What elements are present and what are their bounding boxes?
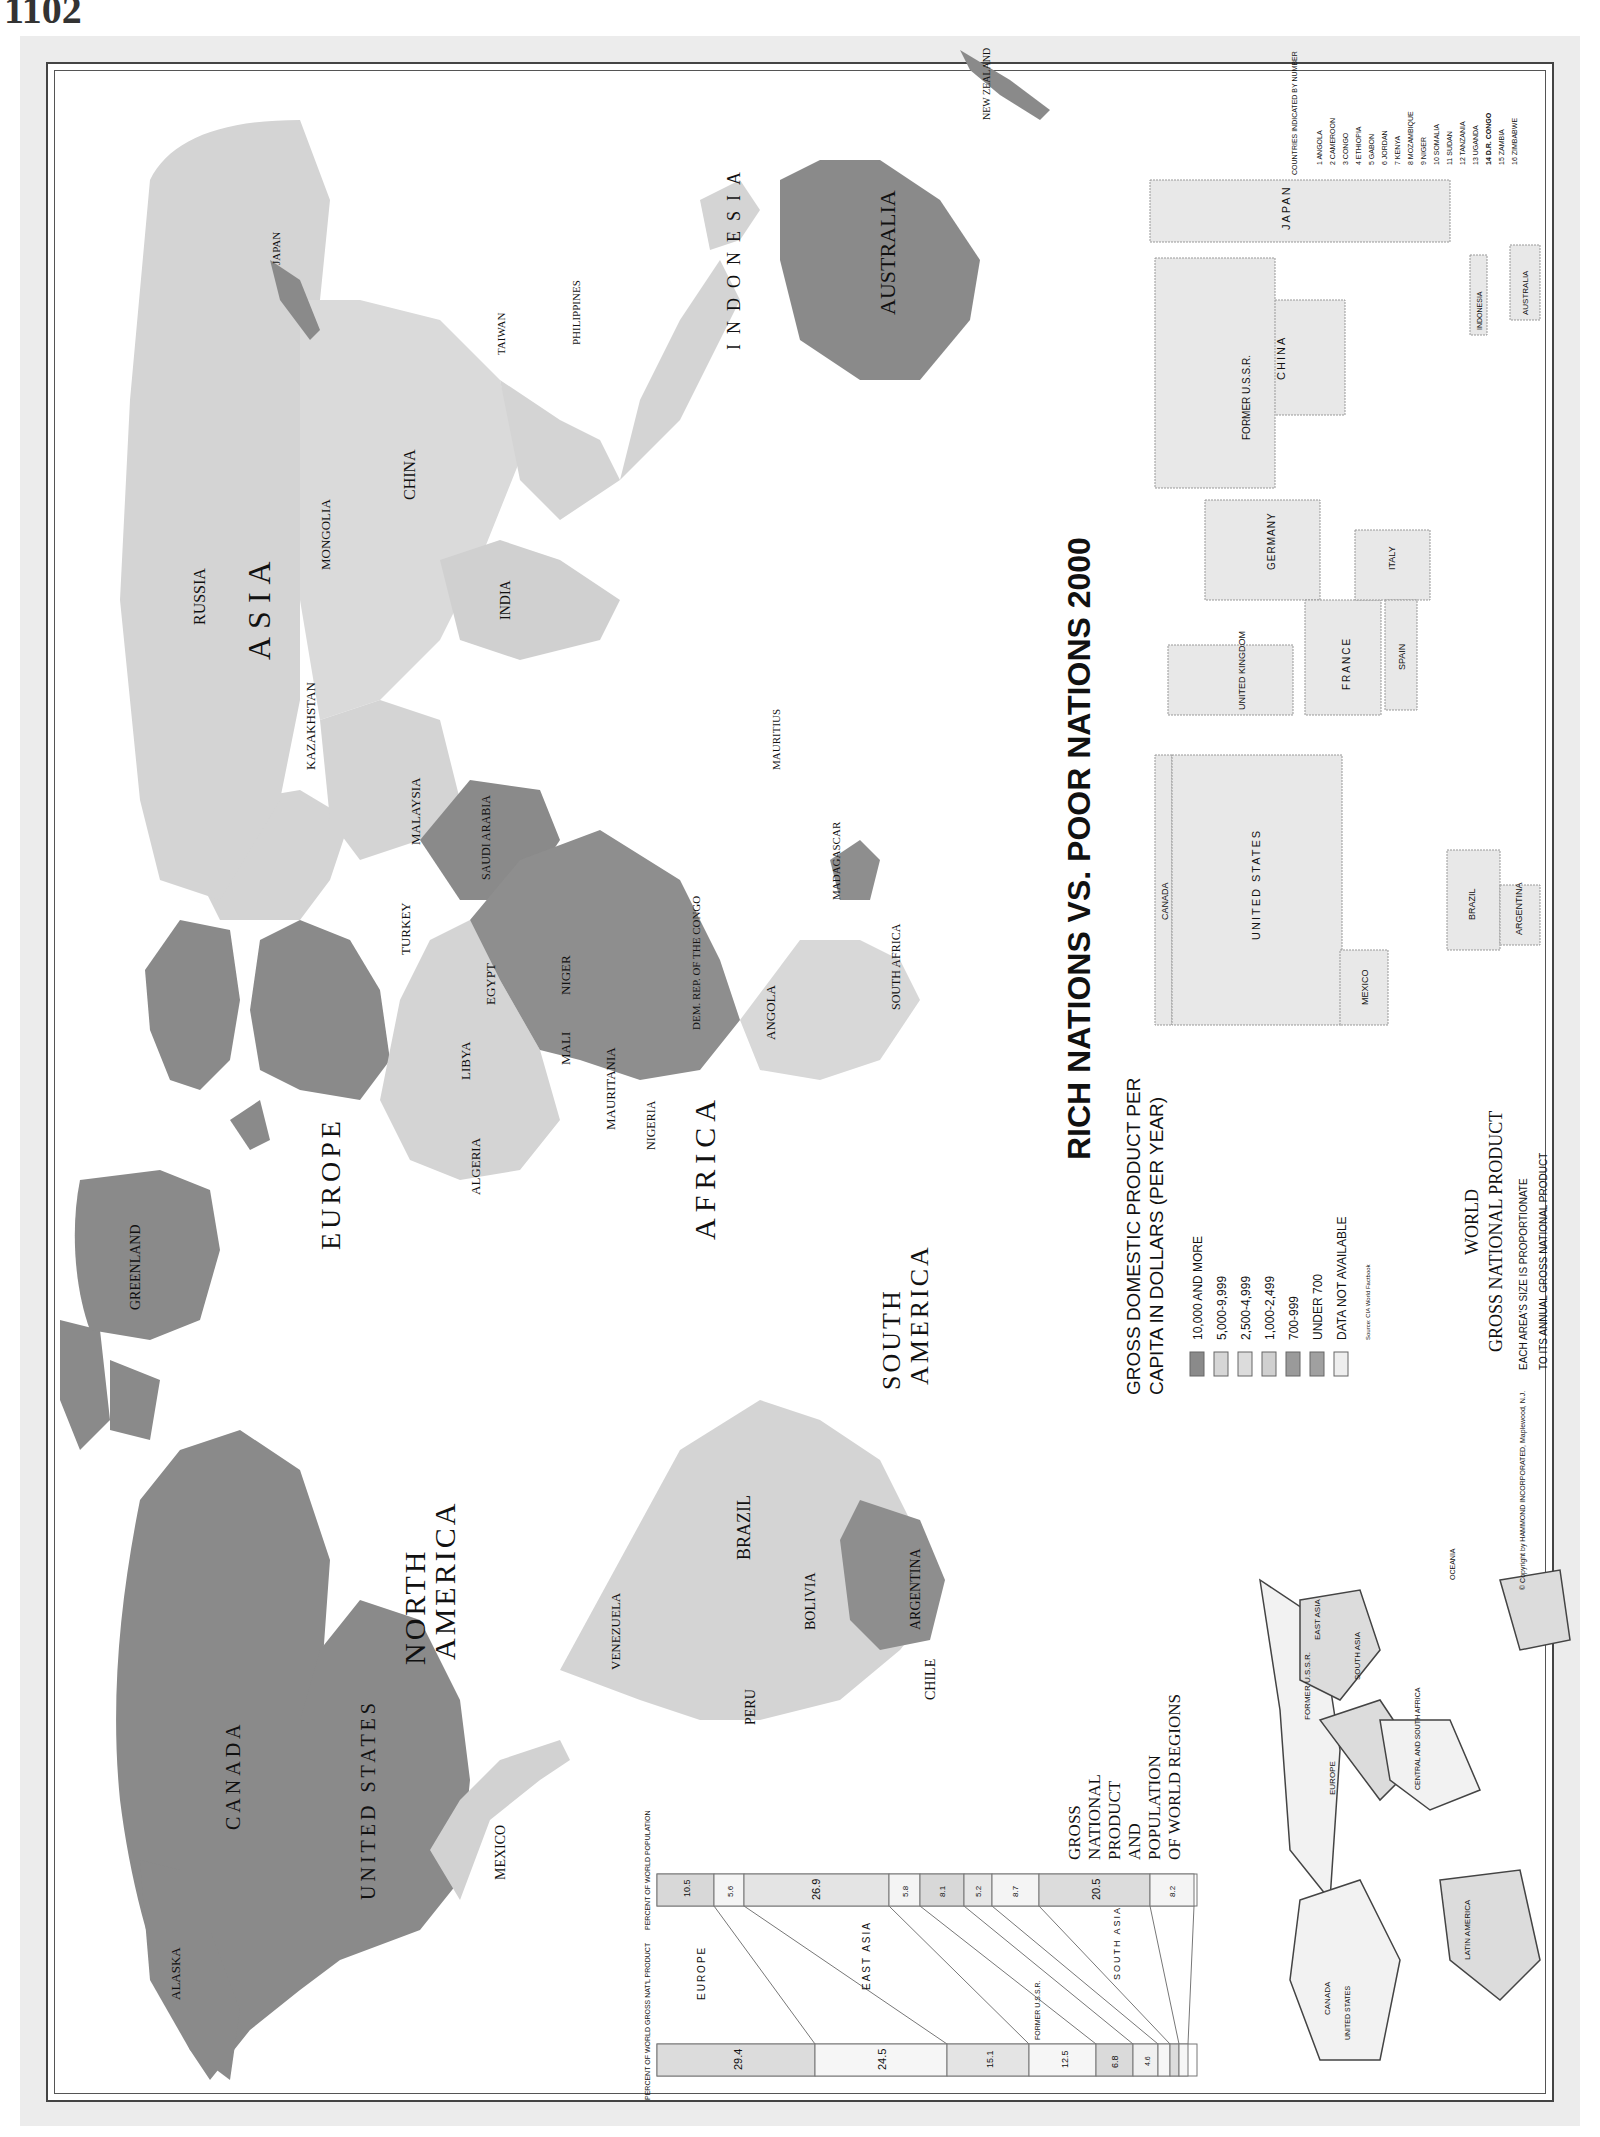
svg-text:GROSS NATIONAL PRODUCT: GROSS NATIONAL PRODUCT bbox=[1486, 1111, 1506, 1352]
country-label-sudan: NIGER bbox=[558, 955, 573, 995]
svg-text:EACH AREA'S SIZE IS PROPORTION: EACH AREA'S SIZE IS PROPORTIONATE bbox=[1518, 1178, 1529, 1370]
svg-text:WORLD: WORLD bbox=[1462, 1189, 1482, 1255]
legend-swatch-5000-9999 bbox=[1214, 1352, 1228, 1376]
svg-text:29.4: 29.4 bbox=[732, 2049, 744, 2070]
svg-text:5.8: 5.8 bbox=[901, 1885, 910, 1897]
landmass-southeast-asia bbox=[500, 380, 620, 520]
svg-text:6 JORDAN: 6 JORDAN bbox=[1381, 130, 1388, 165]
country-label-mexico: MEXICO bbox=[493, 1825, 508, 1880]
country-label-japan: JAPAN bbox=[270, 232, 282, 265]
region-label-indonesia: INDONESIA bbox=[724, 162, 744, 350]
country-label-new-zealand: NEW ZEALAND bbox=[981, 48, 992, 120]
svg-text:SOUTH ASIA: SOUTH ASIA bbox=[1353, 1631, 1362, 1680]
svg-text:BRAZIL: BRAZIL bbox=[1467, 888, 1477, 920]
country-label-egypt: EGYPT bbox=[483, 963, 498, 1005]
svg-text:8.2: 8.2 bbox=[1168, 1885, 1177, 1897]
svg-text:6.8: 6.8 bbox=[1110, 2055, 1120, 2068]
svg-text:26.9: 26.9 bbox=[810, 1879, 822, 1900]
svg-text:4 ETHIOPIA: 4 ETHIOPIA bbox=[1355, 126, 1362, 165]
svg-text:UNITED STATES: UNITED STATES bbox=[1250, 829, 1262, 940]
svg-text:AND: AND bbox=[1125, 1823, 1144, 1860]
country-label-madagascar: MADAGASCAR bbox=[830, 821, 842, 900]
svg-text:15 ZAMBIA: 15 ZAMBIA bbox=[1498, 129, 1505, 165]
svg-text:15.1: 15.1 bbox=[985, 2050, 995, 2068]
svg-text:11 SUDAN: 11 SUDAN bbox=[1446, 131, 1453, 165]
svg-text:7 KENYA: 7 KENYA bbox=[1394, 136, 1401, 165]
svg-text:EAST ASIA: EAST ASIA bbox=[861, 1921, 872, 1990]
country-label-bolivia: BOLIVIA bbox=[803, 1572, 818, 1630]
svg-text:ARGENTINA: ARGENTINA bbox=[1514, 882, 1524, 935]
country-label-mongolia: MONGOLIA bbox=[318, 499, 333, 570]
gnp-pop-chart-title: GROSS NATIONAL PRODUCT AND POPULATION OF… bbox=[1065, 1694, 1184, 1860]
svg-text:UNITED STATES: UNITED STATES bbox=[1344, 1985, 1351, 2040]
pop-axis-label: PERCENT OF WORLD POPULATION bbox=[644, 1810, 651, 1930]
continent-label-south-america: SOUTH bbox=[877, 1288, 906, 1390]
svg-text:EUROPE: EUROPE bbox=[1328, 1761, 1337, 1795]
svg-text:5 GABON: 5 GABON bbox=[1368, 134, 1375, 165]
svg-text:NATIONAL: NATIONAL bbox=[1085, 1774, 1104, 1860]
svg-text:CHINA: CHINA bbox=[1275, 336, 1287, 380]
svg-text:FORMER U.S.S.R.: FORMER U.S.S.R. bbox=[1034, 1980, 1041, 2040]
svg-text:2 CAMEROON: 2 CAMEROON bbox=[1329, 118, 1336, 165]
svg-text:AUSTRALIA: AUSTRALIA bbox=[1521, 270, 1530, 315]
cartogram-former-ussr bbox=[1155, 258, 1275, 488]
svg-text:UNITED KINGDOM: UNITED KINGDOM bbox=[1237, 631, 1247, 710]
svg-text:INDONESIA: INDONESIA bbox=[1476, 291, 1483, 330]
legend-label-1000-2499: 1,000-2,499 bbox=[1263, 1276, 1277, 1340]
svg-text:JAPAN: JAPAN bbox=[1280, 185, 1292, 230]
svg-text:SPAIN: SPAIN bbox=[1397, 644, 1407, 670]
country-label-kazakhstan: KAZAKHSTAN bbox=[303, 682, 318, 770]
svg-text:12.5: 12.5 bbox=[1060, 2050, 1070, 2068]
svg-text:CANADA: CANADA bbox=[1160, 882, 1170, 920]
country-label-india: INDIA bbox=[498, 579, 513, 620]
svg-text:8.1: 8.1 bbox=[938, 1885, 947, 1897]
country-label-philippines: PHILIPPINES bbox=[570, 280, 582, 345]
legend-label-700-999: 700-999 bbox=[1287, 1296, 1301, 1340]
country-label-algeria: ALGERIA bbox=[468, 1137, 483, 1195]
landmass-russia bbox=[120, 120, 330, 900]
country-label-libya: LIBYA bbox=[458, 1041, 473, 1080]
country-label-russia: RUSSIA bbox=[191, 568, 208, 625]
svg-text:20.5: 20.5 bbox=[1090, 1879, 1102, 1900]
svg-text:EUROPE: EUROPE bbox=[696, 1946, 707, 2000]
landmass-new-zealand bbox=[960, 50, 1050, 120]
svg-text:GROSS: GROSS bbox=[1065, 1805, 1084, 1860]
svg-text:8.7: 8.7 bbox=[1011, 1885, 1020, 1897]
svg-text:5.2: 5.2 bbox=[974, 1885, 983, 1897]
svg-text:CENTRAL AND SOUTH AFRICA: CENTRAL AND SOUTH AFRICA bbox=[1414, 1687, 1421, 1790]
svg-text:10 SOMALIA: 10 SOMALIA bbox=[1433, 124, 1440, 165]
landmass-arctic-islands bbox=[60, 1320, 160, 1450]
svg-text:10.5: 10.5 bbox=[682, 1879, 692, 1897]
landmass-western-europe bbox=[250, 920, 390, 1100]
svg-text:14 D.R. CONGO: 14 D.R. CONGO bbox=[1485, 112, 1492, 165]
svg-text:1 ANGOLA: 1 ANGOLA bbox=[1316, 130, 1323, 165]
svg-text:FRANCE: FRANCE bbox=[1341, 637, 1352, 690]
country-label-angola: ANGOLA bbox=[763, 985, 778, 1040]
continent-label-europe: EUROPE bbox=[315, 1117, 346, 1250]
country-label-china: CHINA bbox=[401, 449, 418, 500]
svg-text:ITALY: ITALY bbox=[1387, 546, 1397, 570]
legend-label-5000-9999: 5,000-9,999 bbox=[1215, 1276, 1229, 1340]
svg-text:FORMER U.S.S.R.: FORMER U.S.S.R. bbox=[1303, 1652, 1312, 1720]
cartogram-germany bbox=[1205, 500, 1320, 600]
landmass-china-central-asia bbox=[300, 300, 520, 720]
legend-label-2500-4999: 2,500-4,999 bbox=[1239, 1276, 1253, 1340]
country-label-peru: PERU bbox=[743, 1689, 758, 1725]
svg-text:8 MOZAMBIQUE: 8 MOZAMBIQUE bbox=[1407, 111, 1415, 165]
numbered-country-list: COUNTRIES INDICATED BY NUMBER 1 ANGOLA 2… bbox=[1291, 51, 1518, 175]
continent-label-africa: AFRICA bbox=[688, 1094, 721, 1240]
country-label-taiwan: TAIWAN bbox=[495, 312, 507, 355]
legend-label-under-700: UNDER 700 bbox=[1311, 1274, 1325, 1340]
continent-label-south-america-2: AMERICA bbox=[905, 1244, 934, 1385]
country-label-dr-congo: DEM. REP. OF THE CONGO bbox=[690, 896, 702, 1030]
gnp-bar-cs-africa bbox=[1158, 2044, 1170, 2076]
gdp-legend: GROSS DOMESTIC PRODUCT PER CAPITA IN DOL… bbox=[1123, 1078, 1371, 1395]
country-label-venezuela: VENEZUELA bbox=[608, 1592, 623, 1670]
country-label-saudi-arabia: SAUDI ARABIA bbox=[479, 795, 493, 880]
svg-text:LATIN AMERICA: LATIN AMERICA bbox=[1463, 1899, 1472, 1960]
svg-text:TO ITS ANNUAL GROSS NATIONAL P: TO ITS ANNUAL GROSS NATIONAL PRODUCT bbox=[1538, 1153, 1549, 1370]
svg-text:5.6: 5.6 bbox=[726, 1885, 735, 1897]
svg-text:3 CONGO: 3 CONGO bbox=[1342, 132, 1349, 165]
legend-swatch-700-999 bbox=[1286, 1352, 1300, 1376]
legend-swatch-10000-plus bbox=[1190, 1352, 1204, 1376]
